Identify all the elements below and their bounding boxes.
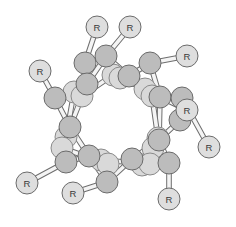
front-atom	[158, 152, 180, 174]
front-atom	[149, 86, 171, 108]
r-group-label: R	[37, 66, 44, 77]
r-group: R	[176, 45, 198, 67]
front-atom	[118, 65, 140, 87]
r-group: R	[86, 16, 108, 38]
r-group: R	[198, 136, 220, 158]
r-group: R	[62, 182, 84, 204]
front-atom	[44, 87, 66, 109]
front-atom	[78, 145, 100, 167]
molecule-canvas: RRRRRRRRR	[0, 0, 236, 227]
r-group-label: R	[94, 22, 101, 33]
front-atom	[96, 171, 118, 193]
molecule-diagram: RRRRRRRRR	[0, 0, 236, 227]
front-atom	[148, 129, 170, 151]
r-group-label: R	[70, 188, 77, 199]
front-atom	[74, 52, 96, 74]
r-group: R	[176, 99, 198, 121]
r-group-label: R	[184, 51, 191, 62]
front-atom	[55, 151, 77, 173]
r-group-label: R	[24, 178, 31, 189]
front-atom	[95, 45, 117, 67]
r-group-label: R	[166, 194, 173, 205]
r-group-label: R	[206, 142, 213, 153]
r-group: R	[119, 16, 141, 38]
front-atom	[59, 116, 81, 138]
r-group: R	[29, 60, 51, 82]
r-group: R	[16, 172, 38, 194]
r-group: R	[158, 188, 180, 210]
r-group-label: R	[127, 22, 134, 33]
front-atom	[76, 73, 98, 95]
front-atom	[139, 52, 161, 74]
front-atom	[121, 148, 143, 170]
r-group-label: R	[184, 105, 191, 116]
